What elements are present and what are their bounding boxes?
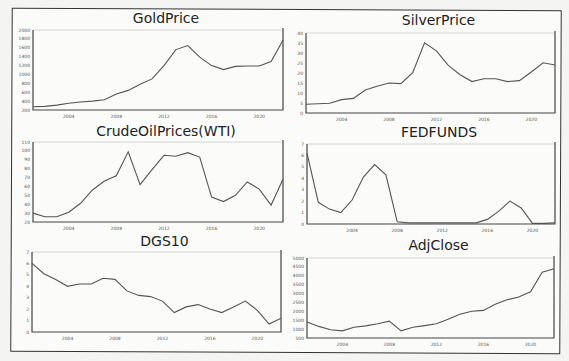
y-tick-label: 40 bbox=[297, 31, 303, 36]
x-tick-label: 2020 bbox=[252, 336, 264, 341]
x-tick-label: 2012 bbox=[157, 336, 169, 341]
y-tick-label: 600 bbox=[21, 90, 30, 95]
y-tick-label: 4 bbox=[26, 284, 29, 289]
y-tick-label: 2 bbox=[301, 199, 304, 204]
y-tick-label: 30 bbox=[297, 51, 303, 56]
gold-price-chart: GoldPrice2004006008001000120014001600180… bbox=[19, 10, 283, 119]
fedfunds-chart: FEDFUNDS0123456720042008201220162020 bbox=[301, 124, 555, 233]
data-line bbox=[306, 43, 555, 104]
adjclose-chart: AdjClose50010001500200025003000350040004… bbox=[293, 237, 554, 347]
x-tick-label: 2012 bbox=[158, 226, 170, 231]
x-tick-label: 2004 bbox=[337, 342, 349, 347]
y-tick-label: 30 bbox=[24, 211, 30, 216]
y-tick-label: 4500 bbox=[293, 264, 305, 269]
y-tick-label: 1000 bbox=[293, 327, 305, 332]
y-tick-label: 5000 bbox=[293, 256, 305, 261]
y-tick-label: 100 bbox=[21, 148, 30, 153]
y-tick-label: 1200 bbox=[19, 63, 31, 68]
y-tick-label: 90 bbox=[24, 157, 30, 162]
x-tick-label: 2020 bbox=[527, 228, 539, 233]
y-tick-label: 4000 bbox=[293, 273, 305, 278]
y-tick-label: 2500 bbox=[293, 300, 305, 305]
y-tick-label: 60 bbox=[24, 184, 30, 189]
y-tick-label: 2000 bbox=[19, 28, 31, 33]
y-tick-label: 110 bbox=[21, 140, 30, 145]
y-tick-label: 800 bbox=[21, 81, 30, 86]
data-line bbox=[307, 269, 554, 331]
y-tick-label: 3 bbox=[26, 295, 29, 300]
y-tick-label: 70 bbox=[24, 175, 30, 180]
axes bbox=[32, 250, 281, 332]
y-tick-label: 3500 bbox=[293, 282, 305, 287]
x-tick-label: 2008 bbox=[391, 228, 403, 233]
y-tick-label: 400 bbox=[21, 99, 30, 104]
chart-title: DGS10 bbox=[140, 233, 188, 249]
x-tick-label: 2008 bbox=[109, 336, 121, 341]
x-tick-label: 2016 bbox=[206, 226, 218, 231]
y-tick-label: 2000 bbox=[293, 309, 305, 314]
dgs10-chart: DGS100123456720042008201220162020 bbox=[26, 233, 281, 341]
y-tick-label: 0 bbox=[301, 222, 304, 227]
y-tick-label: 5 bbox=[26, 272, 29, 277]
y-tick-label: 4 bbox=[301, 176, 304, 181]
y-tick-label: 5 bbox=[300, 101, 303, 106]
y-tick-label: 7 bbox=[26, 250, 29, 255]
data-line bbox=[307, 153, 555, 223]
y-tick-label: 10 bbox=[297, 91, 303, 96]
axes bbox=[307, 142, 555, 224]
y-tick-label: 6 bbox=[26, 261, 29, 266]
x-tick-label: 2016 bbox=[204, 336, 216, 341]
y-tick-label: 20 bbox=[24, 220, 30, 225]
axes bbox=[33, 140, 283, 222]
chart-title: FEDFUNDS bbox=[401, 124, 477, 140]
y-tick-label: 2 bbox=[26, 307, 29, 312]
x-tick-label: 2008 bbox=[384, 342, 396, 347]
y-tick-label: 3 bbox=[301, 187, 304, 192]
y-tick-label: 7 bbox=[301, 142, 304, 147]
chart-title: AdjClose bbox=[408, 237, 468, 253]
y-tick-label: 80 bbox=[24, 166, 30, 171]
y-tick-label: 1400 bbox=[19, 54, 31, 59]
x-tick-label: 2008 bbox=[111, 226, 123, 231]
chart-title: GoldPrice bbox=[133, 10, 199, 26]
chart-grid: GoldPrice2004006008001000120014001600180… bbox=[0, 0, 569, 361]
x-tick-label: 2012 bbox=[431, 117, 443, 122]
x-tick-label: 2012 bbox=[437, 228, 449, 233]
x-tick-label: 2004 bbox=[336, 117, 348, 122]
y-tick-label: 0 bbox=[300, 111, 303, 116]
axes bbox=[33, 28, 283, 110]
y-tick-label: 1000 bbox=[19, 72, 31, 77]
x-tick-label: 2016 bbox=[482, 228, 494, 233]
x-tick-label: 2016 bbox=[206, 114, 218, 119]
y-tick-label: 20 bbox=[297, 71, 303, 76]
x-tick-label: 2004 bbox=[63, 226, 75, 231]
x-tick-label: 2008 bbox=[383, 117, 395, 122]
y-tick-label: 200 bbox=[21, 108, 30, 113]
x-tick-label: 2020 bbox=[526, 117, 538, 122]
y-tick-label: 1 bbox=[26, 318, 29, 323]
x-tick-label: 2008 bbox=[111, 114, 123, 119]
y-tick-label: 1600 bbox=[19, 45, 31, 50]
x-tick-label: 2020 bbox=[525, 342, 537, 347]
data-line bbox=[32, 263, 281, 324]
y-tick-label: 25 bbox=[297, 61, 303, 66]
data-line bbox=[33, 152, 283, 217]
chart-title: CrudeOilPrices(WTI) bbox=[96, 123, 236, 139]
x-tick-label: 2016 bbox=[478, 117, 490, 122]
x-tick-label: 2012 bbox=[431, 342, 443, 347]
y-tick-label: 0 bbox=[26, 330, 29, 335]
y-tick-label: 15 bbox=[297, 81, 303, 86]
y-tick-label: 1 bbox=[301, 210, 304, 215]
x-tick-label: 2012 bbox=[158, 114, 170, 119]
y-tick-label: 1500 bbox=[293, 318, 305, 323]
y-tick-label: 500 bbox=[295, 336, 304, 341]
y-tick-label: 40 bbox=[24, 202, 30, 207]
y-tick-label: 6 bbox=[301, 153, 304, 158]
x-tick-label: 2004 bbox=[63, 114, 75, 119]
y-tick-label: 5 bbox=[301, 164, 304, 169]
chart-title: SilverPrice bbox=[402, 12, 475, 28]
y-tick-label: 50 bbox=[24, 193, 30, 198]
y-tick-label: 3000 bbox=[293, 291, 305, 296]
x-tick-label: 2020 bbox=[253, 114, 265, 119]
y-tick-label: 1800 bbox=[19, 36, 31, 41]
